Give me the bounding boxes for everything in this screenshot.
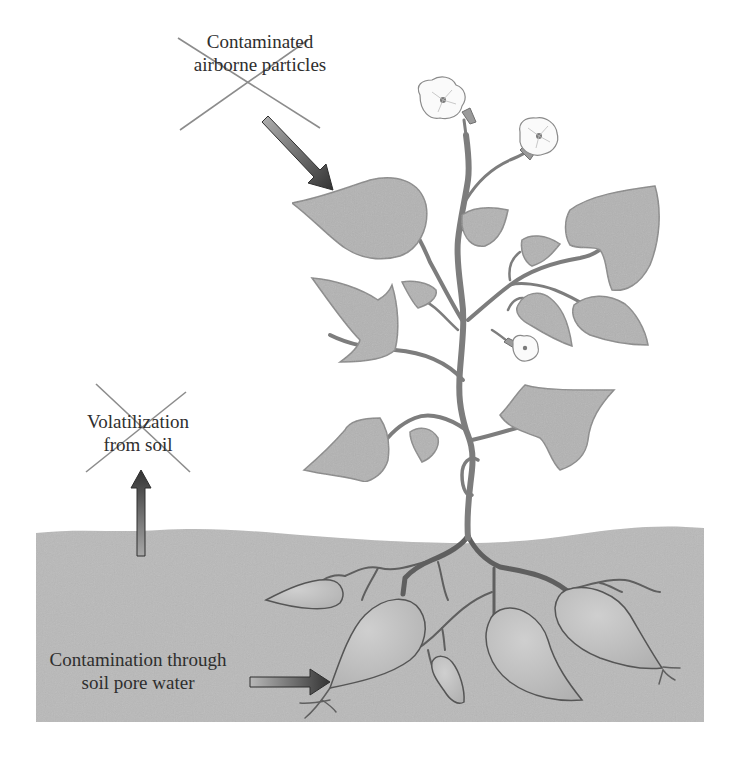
contamination-pathways-diagram: Contaminated airborne particles Volatili… (0, 0, 739, 758)
label-line: airborne particles (186, 53, 334, 76)
leaf-lower-right-lobed (500, 385, 614, 470)
label-line: Contamination through (28, 648, 248, 671)
leaf-lower-heart-small (410, 428, 438, 462)
label-contamination-through-soil-pore-water: Contamination through soil pore water (28, 648, 248, 694)
label-contaminated-airborne-particles: Contaminated airborne particles (186, 30, 334, 76)
leaves (292, 178, 659, 482)
flower-mid (504, 335, 538, 361)
flower-top-right (520, 118, 558, 160)
arrow-airborne (262, 116, 333, 190)
leaf-right-heart-right (573, 296, 648, 345)
label-line: from soil (74, 433, 202, 456)
label-line: soil pore water (28, 671, 248, 694)
diagram-canvas (0, 0, 739, 758)
leaf-left-lobed (312, 278, 398, 362)
leaf-upper-left-large (292, 178, 427, 259)
leaf-right-large (566, 186, 660, 290)
leaf-lower-left-lobed (304, 418, 389, 482)
flower-top-left (418, 77, 476, 124)
label-line: Contaminated (186, 30, 334, 53)
leaf-upper-center-small (462, 208, 508, 246)
label-line: Volatilization (74, 410, 202, 433)
leaf-right-upper-small (521, 236, 560, 266)
label-volatilization-from-soil: Volatilization from soil (74, 410, 202, 456)
